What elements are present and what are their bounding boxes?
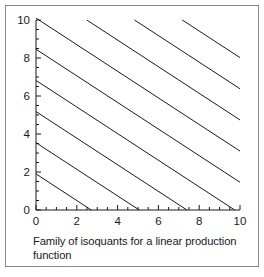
y-tick-label: 0 xyxy=(24,204,30,216)
plot-area: 0246810 0246810 xyxy=(0,0,264,232)
isoquant-line xyxy=(87,20,240,120)
isoquant-line xyxy=(135,20,240,89)
y-axis-tick-labels: 0246810 xyxy=(17,14,30,216)
isoquant-chart: 0246810 0246810 xyxy=(0,0,264,232)
y-tick-label: 2 xyxy=(24,166,30,178)
isoquant-line xyxy=(182,20,240,58)
isoquant-lines xyxy=(36,18,240,210)
x-tick-label: 2 xyxy=(74,215,80,227)
x-axis-tick-labels: 0246810 xyxy=(33,215,247,227)
x-tick-label: 6 xyxy=(155,215,161,227)
y-axis-ticks xyxy=(36,20,41,210)
y-tick-label: 8 xyxy=(24,52,30,64)
x-tick-label: 4 xyxy=(114,215,121,227)
axes-group xyxy=(36,20,240,210)
isoquant-line xyxy=(36,143,139,210)
isoquant-line xyxy=(36,174,91,210)
isoquant-line xyxy=(36,112,187,210)
y-tick-label: 4 xyxy=(24,128,31,140)
y-tick-label: 6 xyxy=(24,90,30,102)
x-tick-label: 10 xyxy=(234,215,247,227)
isoquant-line xyxy=(36,80,235,210)
x-tick-label: 0 xyxy=(33,215,39,227)
figure-root: 0246810 0246810 Family of isoquants for … xyxy=(0,0,264,277)
figure-caption: Family of isoquants for a linear product… xyxy=(33,234,251,262)
x-tick-label: 8 xyxy=(196,215,202,227)
y-tick-label: 10 xyxy=(17,14,30,26)
